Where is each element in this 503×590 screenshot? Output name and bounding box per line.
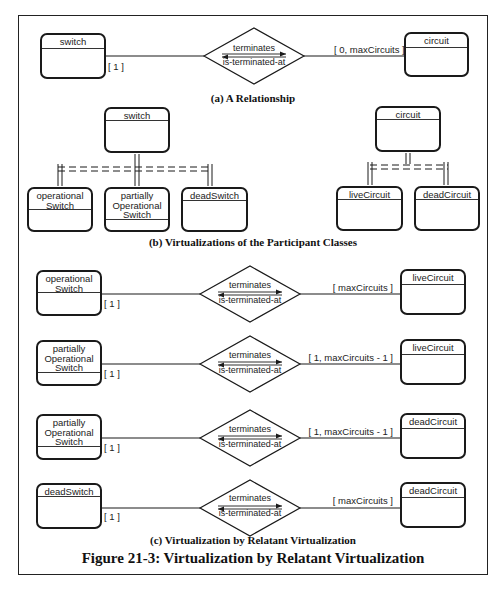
class-name: partially Operational Switch: [38, 416, 100, 447]
class-name: switch: [42, 35, 104, 49]
caption-c: (c) Virtualization by Relatant Virtualiz…: [18, 534, 488, 546]
relationship-forward-label: terminates: [219, 43, 289, 53]
class-name: deadSwitch: [38, 485, 100, 497]
class-box-dead-switch: deadSwitch: [181, 187, 248, 232]
relationship-reverse-label: is-terminated-at: [215, 439, 285, 449]
class-box-circuit-parent: circuit: [375, 106, 441, 152]
class-name: circuit: [377, 108, 439, 120]
relationship-diamond: [200, 336, 300, 392]
multiplicity-right: [ 0, maxCircuits ]: [334, 44, 405, 55]
class-name: deadCircuit: [416, 188, 478, 200]
multiplicity-left: [ 1 ]: [104, 442, 120, 453]
caption-b: (b) Virtualizations of the Participant C…: [18, 236, 488, 248]
class-name: deadSwitch: [183, 189, 246, 201]
multiplicity-right: [ 1, maxCircuits - 1 ]: [309, 352, 393, 363]
multiplicity-left: [ 1 ]: [104, 511, 120, 522]
class-name: liveCircuit: [338, 188, 401, 200]
class-name: deadCircuit: [402, 484, 464, 498]
class-name: partially Operational Switch: [38, 342, 100, 373]
class-name: deadCircuit: [402, 415, 464, 429]
relationship-forward-label: terminates: [215, 424, 285, 434]
class-box-left-row-1: operational Switch: [36, 270, 102, 316]
class-box-switch: switch: [40, 33, 106, 79]
class-name: switch: [106, 109, 168, 121]
multiplicity-left: [ 1 ]: [108, 61, 124, 72]
class-box-live-circuit: liveCircuit: [336, 186, 403, 231]
relationship-forward-label: terminates: [215, 493, 285, 503]
multiplicity-left: [ 1 ]: [104, 298, 120, 309]
relationship-reverse-label: is-terminated-at: [219, 57, 289, 67]
relationship-forward-label: terminates: [215, 350, 285, 360]
relationship-reverse-label: is-terminated-at: [215, 295, 285, 305]
class-box-left-row-3: partially Operational Switch: [36, 414, 102, 460]
class-box-left-row-2: partially Operational Switch: [36, 340, 102, 386]
multiplicity-right: [ maxCircuits ]: [333, 282, 393, 293]
class-name: operational Switch: [38, 272, 100, 293]
class-box-partially-operational-switch: partially Operational Switch: [104, 187, 170, 232]
multiplicity-right: [ 1, maxCircuits - 1 ]: [309, 426, 393, 437]
class-name: operational Switch: [29, 189, 91, 210]
class-box-right-row-1: liveCircuit: [400, 269, 466, 315]
class-name: circuit: [406, 34, 467, 48]
class-box-switch-parent: switch: [104, 107, 170, 153]
class-box-circuit: circuit: [404, 32, 469, 77]
relationship-reverse-label: is-terminated-at: [215, 365, 285, 375]
class-name: liveCircuit: [402, 341, 464, 355]
class-box-right-row-2: liveCircuit: [400, 339, 466, 385]
class-box-left-row-4: deadSwitch: [36, 483, 102, 529]
class-name: liveCircuit: [402, 271, 464, 285]
multiplicity-right: [ maxCircuits ]: [333, 495, 393, 506]
class-box-right-row-4: deadCircuit: [400, 482, 466, 528]
caption-a: (a) A Relationship: [18, 92, 488, 104]
relationship-reverse-label: is-terminated-at: [215, 508, 285, 518]
class-box-dead-circuit: deadCircuit: [414, 186, 480, 231]
diagram-canvas: switch circuit [ 1 ] [ 0, maxCircuits ] …: [0, 0, 503, 590]
figure-title: Figure 21-3: Virtualization by Relatant …: [18, 550, 488, 567]
class-box-operational-switch: operational Switch: [27, 187, 93, 232]
class-name: partially Operational Switch: [106, 189, 168, 220]
multiplicity-left: [ 1 ]: [104, 368, 120, 379]
relationship-forward-label: terminates: [215, 280, 285, 290]
relationship-diamond: [204, 28, 304, 84]
relationship-diamond: [200, 266, 300, 322]
class-box-right-row-3: deadCircuit: [400, 413, 466, 459]
relationship-diamond: [200, 410, 300, 466]
